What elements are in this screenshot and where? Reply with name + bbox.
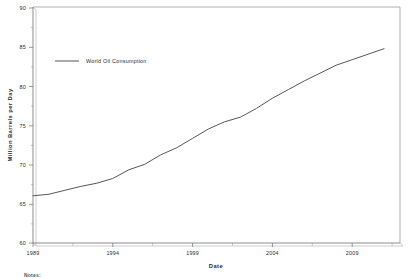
legend-label-world-oil-consumption: World Oil Consumption — [86, 58, 147, 64]
axis-shadow-corner-right — [400, 243, 403, 246]
chart-figure: 90 85 80 75 70 65 60 Million Barrels per… — [0, 0, 419, 278]
y-tick-label-65: 65 — [20, 201, 26, 207]
y-tick-label-70: 70 — [20, 162, 26, 168]
y-axis-major-ticks — [29, 8, 33, 243]
x-tick-label-1999: 1999 — [186, 250, 199, 256]
footnote-notes: Notes: — [24, 272, 41, 278]
line-chart-canvas: 90 85 80 75 70 65 60 Million Barrels per… — [0, 0, 419, 278]
axis-shadow-corner-bottom — [33, 243, 36, 246]
y-tick-label-85: 85 — [20, 44, 26, 50]
axis-shadow-corner-top — [33, 7, 36, 10]
x-tick-label-1994: 1994 — [106, 250, 119, 256]
y-tick-label-75: 75 — [20, 123, 26, 129]
x-tick-label-1989: 1989 — [27, 250, 40, 256]
y-tick-label-90: 90 — [20, 5, 26, 11]
x-axis-major-ticks — [33, 243, 352, 247]
x-axis-title: Date — [209, 263, 224, 269]
y-tick-label-60: 60 — [20, 240, 26, 246]
axis-shadow-offset — [36, 10, 403, 246]
chart-legend: World Oil Consumption — [55, 58, 147, 64]
x-tick-label-2009: 2009 — [346, 250, 359, 256]
x-tick-label-2004: 2004 — [266, 250, 279, 256]
y-axis-title: Million Barrels per Day — [7, 88, 13, 161]
y-tick-label-80: 80 — [20, 84, 26, 90]
series-line-world-oil-consumption — [33, 49, 384, 196]
